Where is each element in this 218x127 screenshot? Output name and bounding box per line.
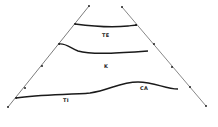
ti-ca-horizon-curve xyxy=(16,82,178,98)
right-boundary-line xyxy=(122,7,206,106)
label-ca: CA xyxy=(140,85,148,91)
label-ti: TI xyxy=(63,97,69,103)
k-horizon-curve xyxy=(59,44,148,53)
te-horizon-curve xyxy=(75,24,137,27)
left-boundary-line xyxy=(8,6,89,107)
label-te: TE xyxy=(102,32,110,38)
diagram-canvas: TE K TI CA xyxy=(0,0,218,127)
label-k: K xyxy=(104,63,109,69)
